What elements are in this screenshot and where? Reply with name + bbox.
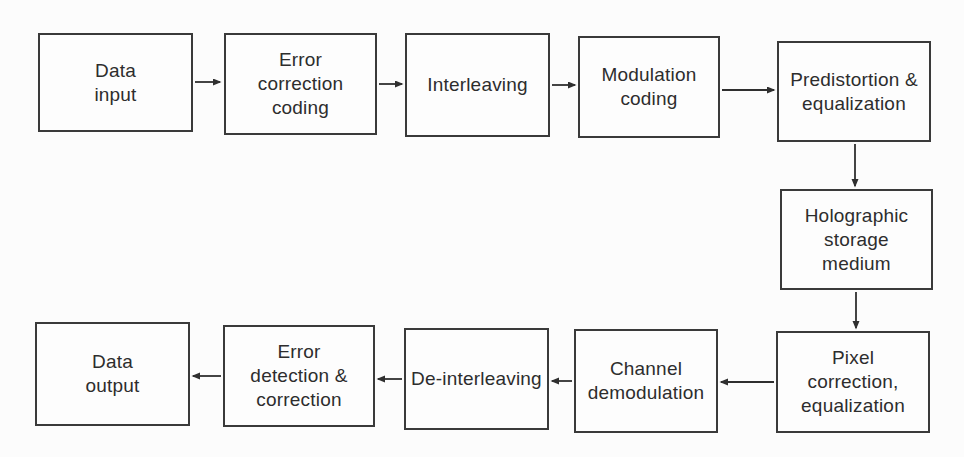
node-modulation-coding: Modulation coding — [578, 36, 720, 138]
node-channel-demodulation: Channel demodulation — [574, 329, 718, 433]
node-pixel-correction-equalization: Pixel correction, equalization — [776, 331, 930, 433]
node-label-holographic-storage-medium: Holographic storage medium — [805, 204, 909, 276]
node-label-data-input: Data input — [94, 59, 136, 107]
node-predistortion-equalization: Predistortion & equalization — [777, 41, 931, 142]
node-label-error-correction-coding: Error correction coding — [258, 48, 343, 120]
node-label-predistortion-equalization: Predistortion & equalization — [790, 68, 918, 116]
node-data-output: Data output — [35, 322, 190, 426]
flow-diagram: Data input Error correction coding Inter… — [0, 0, 964, 457]
node-de-interleaving: De-interleaving — [404, 328, 549, 430]
node-label-de-interleaving: De-interleaving — [411, 367, 542, 391]
node-holographic-storage-medium: Holographic storage medium — [780, 189, 933, 290]
node-label-error-detection-correction: Error detection & correction — [250, 340, 347, 412]
node-error-detection-correction: Error detection & correction — [223, 325, 375, 427]
node-label-channel-demodulation: Channel demodulation — [588, 357, 704, 405]
node-error-correction-coding: Error correction coding — [224, 33, 377, 135]
node-label-pixel-correction-equalization: Pixel correction, equalization — [801, 346, 905, 418]
node-interleaving: Interleaving — [405, 33, 550, 137]
node-label-interleaving: Interleaving — [427, 73, 528, 97]
node-data-input: Data input — [38, 33, 193, 132]
node-label-data-output: Data output — [85, 350, 139, 398]
node-label-modulation-coding: Modulation coding — [602, 63, 697, 111]
